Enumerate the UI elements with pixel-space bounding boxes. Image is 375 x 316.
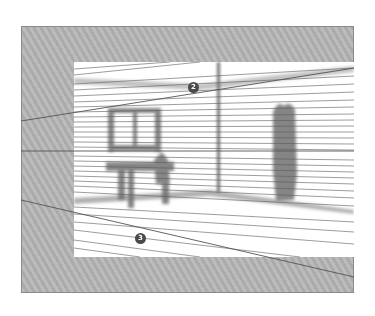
callout-badge-3: 3 xyxy=(135,233,146,244)
window xyxy=(108,108,161,152)
floor-vanishing-line xyxy=(21,200,354,277)
floor-edge xyxy=(74,190,354,214)
corner-post xyxy=(217,62,220,192)
main-guide-lines xyxy=(21,68,354,277)
ceiling-vanishing-line xyxy=(21,68,354,121)
perspective-drawing xyxy=(0,0,375,316)
perspective-lines xyxy=(74,62,354,257)
callout-badge-2: 2 xyxy=(188,82,199,93)
coat-shadow xyxy=(273,104,297,200)
